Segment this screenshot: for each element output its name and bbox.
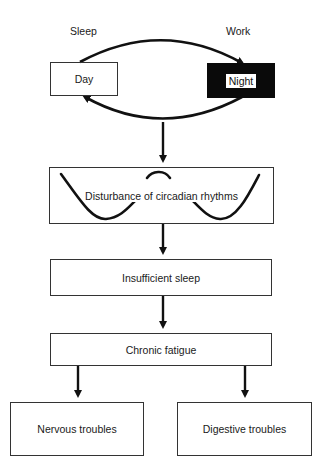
insufficient-sleep-box: Insufficient sleep: [50, 259, 272, 296]
work-label: Work: [226, 25, 250, 37]
nervous-troubles-label: Nervous troubles: [37, 423, 116, 435]
insufficient-sleep-label: Insufficient sleep: [122, 272, 200, 284]
day-box: Day: [50, 62, 118, 96]
day-label: Day: [75, 73, 94, 85]
night-box: Night: [207, 63, 275, 98]
digestive-troubles-label: Digestive troubles: [203, 423, 286, 435]
chronic-fatigue-label: Chronic fatigue: [126, 344, 197, 356]
arc-day-to-night: [80, 40, 242, 63]
nervous-troubles-box: Nervous troubles: [10, 402, 144, 456]
arc-night-to-day: [85, 97, 242, 119]
digestive-troubles-box: Digestive troubles: [177, 402, 312, 456]
circadian-disturbance-label: Disturbance of circadian rhythms: [84, 190, 239, 202]
chronic-fatigue-box: Chronic fatigue: [50, 333, 272, 366]
circadian-disturbance-box: Disturbance of circadian rhythms: [49, 167, 274, 224]
night-label: Night: [226, 74, 257, 88]
sleep-label: Sleep: [70, 25, 97, 37]
